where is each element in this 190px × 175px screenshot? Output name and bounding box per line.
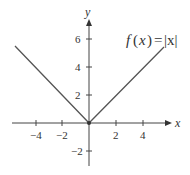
y-tick-label: 6 [75,33,81,45]
svg-text:=: = [154,32,162,48]
y-axis-label: y [84,5,91,19]
x-tick-label: 4 [140,129,146,141]
x-tick-label: 2 [113,129,119,141]
y-tick-label: 2 [75,89,81,101]
x-tick-label: −4 [30,129,42,141]
chart: x y −4 −2 2 4 6 4 2 −2 f ( x ) = |x| [0,0,190,175]
function-annotation: f ( x ) = |x| [126,32,178,49]
y-tick-label: 4 [75,61,81,73]
x-tick-label: −2 [56,129,68,141]
svg-text:f: f [126,32,132,48]
svg-text:|x|: |x| [164,32,178,48]
y-axis-arrow-icon [86,19,92,26]
svg-text:x: x [138,32,146,48]
x-axis-arrow-icon [165,120,172,126]
svg-text:(: ( [133,32,138,49]
y-tick-label: −2 [71,145,83,157]
chart-svg: x y −4 −2 2 4 6 4 2 −2 f ( x ) = |x| [0,0,190,175]
origin-point [87,121,91,125]
svg-text:): ) [147,32,152,49]
x-axis-label: x [174,116,181,130]
